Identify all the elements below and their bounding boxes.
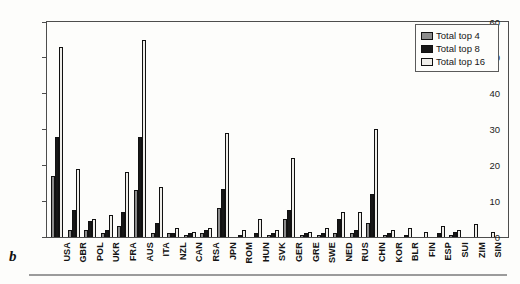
y-axis-tick: [42, 93, 46, 94]
bar-ukr-series-3: [109, 215, 113, 237]
x-axis-label-blr: BLR: [410, 242, 420, 261]
y-axis-tick: [42, 22, 46, 23]
x-axis-label-nzl: NZL: [178, 242, 188, 260]
y-axis-tick-label: 40: [470, 88, 500, 99]
y-axis-tick-label: 30: [470, 124, 500, 135]
bar-sin-series-3: [491, 232, 495, 237]
bar-fin-series-3: [424, 232, 428, 237]
x-axis-label-sui: SUI: [460, 242, 470, 258]
x-axis-label-hun: HUN: [261, 242, 271, 262]
bar-nzl-series-3: [175, 228, 179, 237]
bar-zim-series-3: [474, 224, 478, 237]
x-axis-label-kor: KOR: [394, 242, 404, 263]
x-axis-label-ukr: UKR: [111, 242, 121, 262]
y-axis-tick: [42, 165, 46, 166]
x-axis-label-svk: SVK: [277, 242, 287, 261]
bar-aus-series-3: [142, 40, 146, 237]
x-axis-label-rom: ROM: [244, 242, 254, 264]
legend-swatch-icon: [421, 58, 433, 66]
legend-entry: Total top 8: [421, 42, 498, 55]
legend-entry-label: Total top 4: [436, 30, 480, 41]
bar-chn-series-3: [374, 129, 378, 237]
bar-rsa-series-3: [208, 228, 212, 237]
legend-entry-label: Total top 16: [436, 56, 485, 67]
y-axis-tick: [42, 129, 46, 130]
bar-esp-series-3: [441, 226, 445, 237]
x-axis-label-zim: ZIM: [477, 242, 487, 258]
x-axis-label-gbr: GBR: [78, 242, 88, 263]
bar-hun-series-3: [258, 219, 262, 237]
bar-svk-series-3: [275, 230, 279, 237]
x-axis-label-can: CAN: [194, 242, 204, 262]
y-axis-tick: [42, 201, 46, 202]
x-axis-label-chn: CHN: [377, 242, 387, 262]
x-axis-label-ger: GER: [294, 242, 304, 262]
bar-swe-series-3: [325, 228, 329, 237]
legend-swatch-icon: [421, 45, 433, 53]
y-axis-tick: [42, 57, 46, 58]
legend-box: Total top 4Total top 8Total top 16: [415, 24, 499, 72]
y-axis-tick: [42, 237, 46, 238]
bar-rus-series-3: [358, 212, 362, 237]
bar-ita-series-3: [159, 187, 163, 237]
legend-entry: Total top 4: [421, 29, 498, 42]
y-axis-tick-label: 20: [470, 160, 500, 171]
x-axis-label-swe: SWE: [327, 242, 337, 263]
legend-entry-label: Total top 8: [436, 43, 480, 54]
x-axis-label-gre: GRE: [311, 242, 321, 262]
bar-pol-series-3: [92, 219, 96, 237]
bar-blr-series-3: [408, 228, 412, 237]
x-axis-label-ita: ITA: [161, 242, 171, 256]
bar-ger-series-3: [291, 158, 295, 237]
figure-panel-label: b: [9, 248, 17, 265]
x-axis-label-ned: NED: [344, 242, 354, 262]
legend-swatch-icon: [421, 32, 433, 40]
x-axis-label-sin: SIN: [493, 242, 503, 258]
bar-jpn-series-3: [225, 133, 229, 237]
x-axis-label-usa: USA: [62, 242, 72, 262]
bar-rom-series-3: [242, 230, 246, 237]
bar-sui-series-3: [457, 230, 461, 237]
bottom-divider-line: [29, 274, 507, 276]
bar-fra-series-3: [125, 172, 129, 237]
bar-chart-figure: 0102030405060 USAGBRPOLUKRFRAAUSITANZLCA…: [0, 0, 520, 284]
bar-can-series-3: [192, 232, 196, 237]
y-axis-tick-label: 10: [470, 196, 500, 207]
bar-usa-series-3: [59, 47, 63, 237]
x-axis-label-jpn: JPN: [228, 242, 238, 260]
bar-gre-series-3: [308, 232, 312, 237]
x-axis-label-fin: FIN: [427, 242, 437, 257]
x-axis-label-aus: AUS: [145, 242, 155, 262]
x-axis-label-pol: POL: [95, 242, 105, 261]
bar-kor-series-3: [391, 230, 395, 237]
x-axis-label-rsa: RSA: [211, 242, 221, 262]
bar-gbr-series-3: [76, 169, 80, 237]
x-axis-label-fra: FRA: [128, 242, 138, 261]
legend-entry: Total top 16: [421, 55, 498, 68]
x-axis-label-rus: RUS: [360, 242, 370, 262]
x-axis-label-esp: ESP: [443, 242, 453, 261]
bar-ned-series-3: [341, 212, 345, 237]
